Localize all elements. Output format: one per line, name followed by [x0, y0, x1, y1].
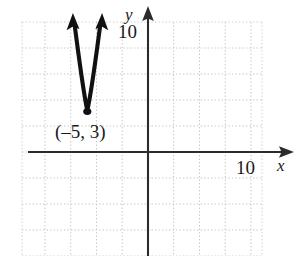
vertex-point-marker [83, 108, 91, 115]
y-axis [142, 6, 154, 256]
x-axis-label: x [277, 157, 285, 174]
y-axis-tick-label: 10 [118, 22, 137, 41]
parabola-curve [67, 13, 109, 115]
coordinate-plane [0, 0, 302, 256]
vertex-coordinate-label: (–5, 3) [55, 122, 106, 141]
graph-figure: y 10 10 x (–5, 3) [0, 0, 302, 256]
x-axis-tick-label: 10 [236, 158, 255, 177]
